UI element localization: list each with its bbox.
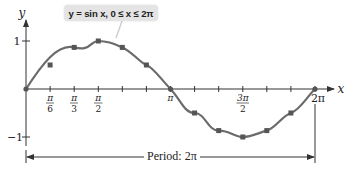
- y-tick-label-neg1: −1: [7, 131, 23, 144]
- x-tick-label-pi-6: π 6: [46, 93, 54, 114]
- x-axis-label: x: [338, 82, 345, 96]
- x-tick-label-pi-2: π 2: [94, 93, 103, 114]
- svg-text:π: π: [46, 93, 54, 103]
- x-tick-label-3pi-2: 3π 2: [237, 93, 250, 114]
- svg-text:π: π: [70, 93, 78, 103]
- svg-text:2: 2: [95, 104, 101, 114]
- svg-text:6: 6: [47, 104, 53, 114]
- function-callout: y = sin x, 0 ≤ x ≤ 2π: [64, 5, 158, 21]
- svg-text:π: π: [94, 93, 102, 103]
- x-tick-label-pi-3: π 3: [70, 93, 78, 114]
- x-tick-label-2pi: 2π: [311, 92, 325, 105]
- x-tick-label-pi: π: [167, 93, 175, 103]
- svg-text:3: 3: [71, 104, 77, 114]
- y-tick-label-1: 1: [14, 35, 21, 48]
- sine-chart: y x 1 −1 π 6 π 3 π 2 π 3π 2 2π: [0, 0, 353, 169]
- svg-text:3π: 3π: [237, 93, 250, 103]
- svg-text:2: 2: [240, 104, 246, 114]
- y-axis-label: y: [18, 6, 26, 20]
- callout-pointer: [116, 21, 122, 38]
- period-label: Period: 2π: [144, 149, 200, 164]
